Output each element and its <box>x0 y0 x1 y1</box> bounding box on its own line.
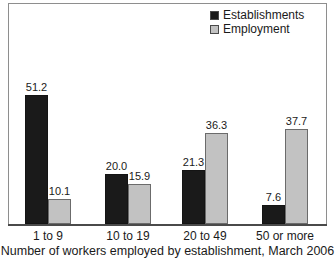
x-tick-label-3: 50 or more <box>240 229 330 243</box>
legend-swatch-employment-icon <box>210 25 219 34</box>
x-axis-baseline <box>8 224 327 226</box>
chart-screenshot: Establishments Employment 51.210.120.015… <box>0 0 335 259</box>
legend-label-establishments: Establishments <box>223 9 304 22</box>
x-tick-label-2: 20 to 49 <box>160 229 250 243</box>
x-tick-label-0: 1 to 9 <box>3 229 93 243</box>
chart-legend: Establishments Employment <box>210 9 330 37</box>
chart-caption: Number of workers employed by establishm… <box>0 244 335 259</box>
legend-item-establishments: Establishments <box>210 9 330 22</box>
legend-item-employment: Employment <box>210 23 330 36</box>
legend-swatch-establishments-icon <box>210 11 219 20</box>
legend-label-employment: Employment <box>223 23 290 36</box>
